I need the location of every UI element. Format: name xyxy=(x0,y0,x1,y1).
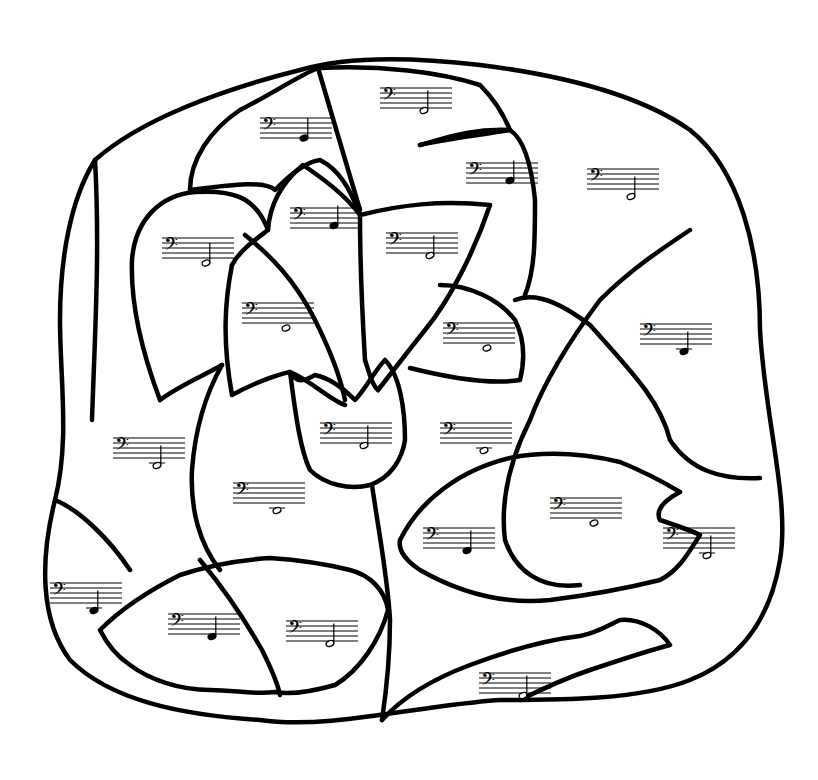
staff-left-stem-area: 𝄢 xyxy=(233,477,305,517)
bass-clef-icon: 𝄢 xyxy=(170,610,184,635)
staff-upper-right-petal: 𝄢 xyxy=(466,157,538,197)
staff-left-petal: 𝄢 xyxy=(162,232,234,272)
staff-right-background: 𝄢 xyxy=(587,163,659,203)
bass-clef-icon: 𝄢 xyxy=(52,579,66,604)
bass-clef-icon: 𝄢 xyxy=(442,419,456,444)
staff-center-background: 𝄢 xyxy=(440,417,512,457)
staff-bottom-left-background: 𝄢 xyxy=(50,577,122,617)
staff-inner-right-petal: 𝄢 xyxy=(443,317,515,357)
bass-clef-icon: 𝄢 xyxy=(552,494,566,519)
bass-clef-icon: 𝄢 xyxy=(665,524,679,549)
staff-inner-left-petal: 𝄢 xyxy=(242,297,314,337)
bass-clef-icon: 𝄢 xyxy=(481,669,495,694)
whole-note-icon xyxy=(281,324,290,332)
staff-lower-left-leaf: 𝄢 xyxy=(168,608,240,648)
bass-clef-icon: 𝄢 xyxy=(642,320,656,345)
staff-bottom-right-leaf: 𝄢 xyxy=(479,667,551,707)
bass-clef-icon: 𝄢 xyxy=(262,114,276,139)
bass-clef-icon: 𝄢 xyxy=(292,204,306,229)
coloring-page: 𝄢𝄢𝄢𝄢𝄢𝄢𝄢𝄢𝄢𝄢𝄢𝄢𝄢𝄢𝄢𝄢𝄢𝄢𝄢𝄢𝄢 xyxy=(0,0,818,780)
staff-far-right-background: 𝄢 xyxy=(640,318,712,358)
bass-clef-icon: 𝄢 xyxy=(288,617,302,642)
bass-clef-icon: 𝄢 xyxy=(322,419,336,444)
bass-clef-icon: 𝄢 xyxy=(382,84,396,109)
whole-note-icon xyxy=(589,519,598,527)
staff-right-leaf: 𝄢 xyxy=(550,492,622,532)
staff-upper-left-petal: 𝄢 xyxy=(260,112,332,152)
bass-clef-icon: 𝄢 xyxy=(445,319,459,344)
staff-lower-center-leaf: 𝄢 xyxy=(286,615,358,655)
bass-clef-icon: 𝄢 xyxy=(115,434,129,459)
staff-center-right-petal: 𝄢 xyxy=(386,227,458,267)
staff-tulip-center: 𝄢 xyxy=(320,417,392,457)
staff-right-leaf-base: 𝄢 xyxy=(423,522,495,562)
bass-clef-icon: 𝄢 xyxy=(468,159,482,184)
bass-clef-icon: 𝄢 xyxy=(589,165,603,190)
staff-left-background: 𝄢 xyxy=(113,432,185,472)
whole-note-icon xyxy=(482,344,491,352)
staff-center-left-petal: 𝄢 xyxy=(290,202,362,242)
bass-clef-icon: 𝄢 xyxy=(164,234,178,259)
staff-top-center-petal: 𝄢 xyxy=(380,82,452,122)
bass-clef-icon: 𝄢 xyxy=(388,229,402,254)
bass-clef-icon: 𝄢 xyxy=(235,479,249,504)
staff-right-leaf-tip: 𝄢 xyxy=(663,522,735,562)
bass-clef-icon: 𝄢 xyxy=(425,524,439,549)
bass-clef-icon: 𝄢 xyxy=(244,299,258,324)
